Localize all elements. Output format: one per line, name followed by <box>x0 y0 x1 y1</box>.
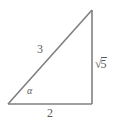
sqrt-expression: √5 <box>95 57 107 70</box>
angle-alpha-label: α <box>27 86 32 96</box>
sqrt-radicand: 5 <box>101 57 107 70</box>
vertical-side-label: √5 <box>95 57 107 70</box>
base-label: 2 <box>47 107 53 119</box>
triangle-hypotenuse-line <box>8 10 92 104</box>
hypotenuse-label: 3 <box>37 43 43 55</box>
triangle-diagram: 3 √5 2 α <box>0 0 114 123</box>
